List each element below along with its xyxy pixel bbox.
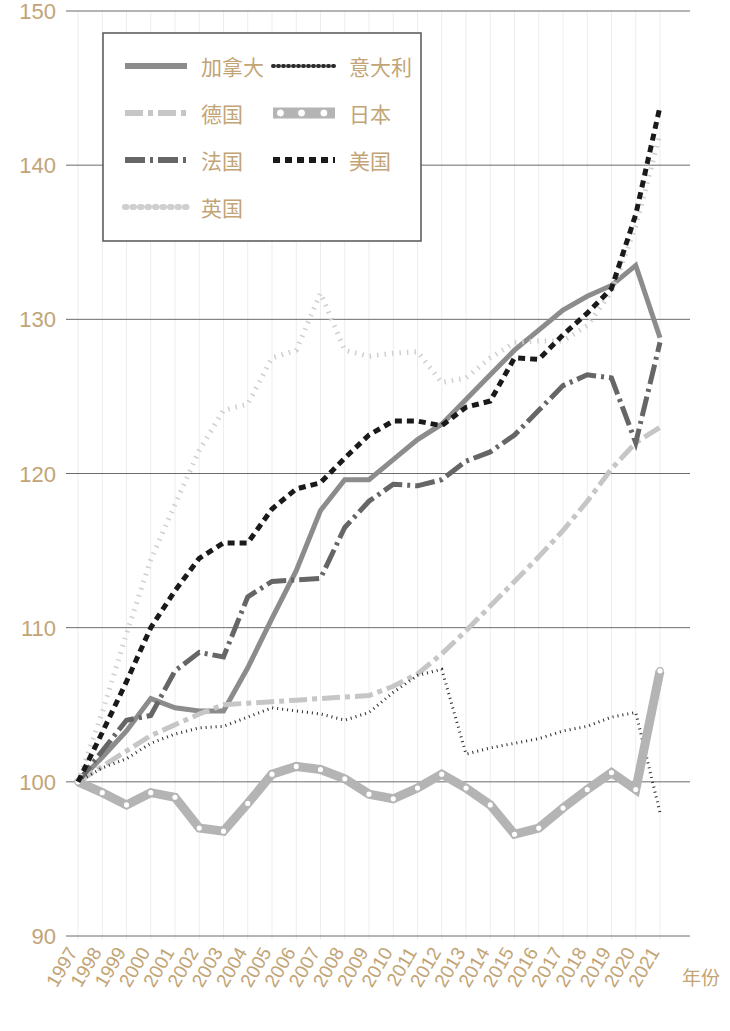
legend-label-japan: 日本 [349, 103, 391, 126]
legend-label-italy: 意大利 [349, 56, 412, 79]
y-tick-label: 110 [21, 616, 56, 641]
chart-legend: 加拿大意大利德国日本法国美国英国 [103, 33, 421, 241]
series-marker-japan [390, 796, 396, 802]
legend-marker-japan [276, 109, 284, 117]
series-marker-japan [560, 805, 566, 811]
series-marker-japan [148, 789, 154, 795]
series-marker-japan [99, 789, 105, 795]
chart-canvas: 15014013012011010090 1997199819992000200… [0, 0, 730, 1031]
series-marker-japan [511, 831, 517, 837]
line-chart: 15014013012011010090 1997199819992000200… [0, 0, 730, 1031]
series-marker-japan [123, 802, 129, 808]
y-tick-label: 90 [32, 924, 56, 949]
series-marker-japan [293, 763, 299, 769]
y-tick-label: 140 [19, 153, 56, 178]
legend-label-usa: 美国 [349, 150, 391, 173]
series-marker-japan [220, 828, 226, 834]
series-marker-japan [269, 771, 275, 777]
series-marker-japan [172, 794, 178, 800]
x-axis-title-label: 年份 [682, 968, 720, 989]
y-tick-label: 120 [19, 462, 56, 487]
legend-marker-japan [320, 109, 328, 117]
series-marker-japan [414, 785, 420, 791]
series-marker-japan [657, 668, 663, 674]
series-marker-japan [633, 786, 639, 792]
y-axis-tick-labels: 15014013012011010090 [19, 0, 56, 949]
y-tick-label: 150 [19, 0, 56, 24]
legend-label-germany: 德国 [201, 103, 243, 126]
series-marker-japan [608, 769, 614, 775]
legend-label-france: 法国 [201, 150, 243, 173]
series-marker-japan [584, 786, 590, 792]
legend-label-uk: 英国 [201, 197, 243, 220]
legend-label-canada: 加拿大 [201, 56, 264, 79]
legend-marker-japan [298, 109, 306, 117]
y-tick-label: 130 [19, 307, 56, 332]
series-marker-japan [245, 800, 251, 806]
series-marker-japan [439, 771, 445, 777]
series-marker-japan [463, 785, 469, 791]
x-axis-tick-labels: 1997199819992000200120022003200420052006… [42, 943, 663, 990]
series-marker-japan [317, 766, 323, 772]
series-marker-japan [342, 776, 348, 782]
x-axis-title: 年份 [682, 968, 720, 989]
series-marker-japan [196, 825, 202, 831]
y-tick-label: 100 [19, 770, 56, 795]
series-marker-japan [366, 791, 372, 797]
series-marker-japan [487, 802, 493, 808]
series-marker-japan [536, 825, 542, 831]
